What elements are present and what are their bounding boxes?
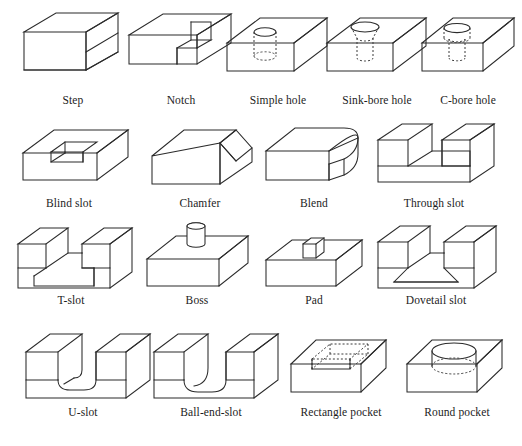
chamfer-block-icon [148, 118, 258, 196]
feature-chamfer [148, 118, 258, 196]
feature-label-boss: Boss [142, 293, 252, 307]
feature-sink-bore-hole [322, 8, 432, 88]
feature-notch [125, 8, 237, 88]
machining-features-figure: Step Notch [0, 0, 522, 446]
feature-u-slot [20, 328, 156, 408]
t-slot-block-icon [12, 222, 138, 300]
feature-through-slot [372, 118, 500, 198]
feature-blend [262, 118, 372, 198]
feature-label-step: Step [18, 93, 128, 107]
rectangle-pocket-block-icon [286, 332, 396, 408]
feature-label-round-pocket: Round pocket [398, 405, 516, 419]
feature-label-blend: Blend [262, 196, 366, 210]
c-bore-hole-block-icon [418, 8, 518, 88]
feature-boss [142, 222, 258, 300]
blend-block-icon [262, 118, 372, 198]
ball-end-slot-block-icon [148, 328, 284, 408]
feature-t-slot [12, 222, 138, 300]
round-pocket-block-icon [402, 332, 512, 408]
feature-label-blind-slot: Blind slot [14, 196, 124, 210]
feature-label-chamfer: Chamfer [144, 196, 256, 210]
feature-simple-hole [222, 8, 334, 88]
feature-pad [262, 222, 372, 300]
feature-label-t-slot: T-slot [12, 293, 130, 307]
feature-round-pocket [402, 332, 512, 408]
feature-label-pad: Pad [262, 293, 366, 307]
feature-label-u-slot: U-slot [20, 405, 146, 419]
feature-label-c-bore-hole: C-bore hole [414, 93, 522, 107]
blind-slot-block-icon [18, 120, 136, 195]
feature-c-bore-hole [418, 8, 518, 88]
feature-dovetail-slot [372, 220, 502, 300]
feature-step [18, 8, 128, 88]
feature-ball-end-slot [148, 328, 284, 408]
boss-block-icon [142, 222, 258, 300]
feature-rectangle-pocket [286, 332, 396, 408]
feature-label-rectangle-pocket: Rectangle pocket [274, 405, 408, 419]
through-slot-block-icon [372, 118, 500, 198]
step-block-icon [18, 8, 128, 88]
sink-bore-hole-block-icon [322, 8, 432, 88]
feature-label-notch: Notch [125, 93, 237, 107]
simple-hole-block-icon [222, 8, 334, 88]
dovetail-slot-block-icon [372, 220, 502, 300]
notch-block-icon [125, 8, 237, 88]
feature-blind-slot [18, 120, 136, 195]
feature-label-through-slot: Through slot [372, 196, 496, 210]
feature-label-ball-end-slot: Ball-end-slot [146, 405, 276, 419]
pad-block-icon [262, 222, 372, 300]
feature-label-dovetail-slot: Dovetail slot [372, 293, 500, 307]
u-slot-block-icon [20, 328, 156, 408]
